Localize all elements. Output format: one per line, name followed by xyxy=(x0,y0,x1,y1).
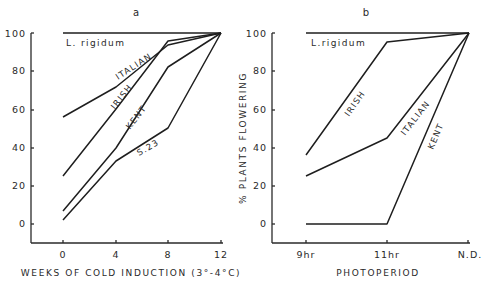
panel-b-y-ticks: 0 20 40 60 80 100 xyxy=(246,28,275,229)
series-l-rigidum-label: L. rigidum xyxy=(66,38,125,48)
series-italian-line xyxy=(306,33,469,176)
figure: a 0 20 40 60 80 100 0 4 8 12 xyxy=(0,0,491,287)
y-tick-label: 100 xyxy=(5,28,26,39)
panel-a: a 0 20 40 60 80 100 0 4 8 12 xyxy=(5,7,241,278)
y-tick-label: 40 xyxy=(253,142,267,153)
y-tick-label: 0 xyxy=(260,218,267,229)
panel-a-x-axis-label: WEEKS OF COLD INDUCTION (3°-4°C) xyxy=(21,268,241,278)
y-tick-label: 20 xyxy=(12,180,26,191)
series-irish-label: IRISH xyxy=(109,82,135,111)
series-italian-label: ITALIAN xyxy=(114,51,154,82)
y-tick-label: 100 xyxy=(246,28,267,39)
panel-a-y-ticks: 0 20 40 60 80 100 xyxy=(5,28,34,229)
series-l-rigidum-label: L.rigidum xyxy=(311,38,366,48)
panel-b-x-axis-label: PHOTOPERIOD xyxy=(336,268,420,278)
x-tick-label: 12 xyxy=(214,249,228,260)
x-tick-label: 8 xyxy=(164,249,171,260)
panel-b: b % PLANTS FLOWERING 0 20 40 60 80 100 9… xyxy=(238,7,482,278)
y-tick-label: 60 xyxy=(12,104,26,115)
panel-b-y-axis-label: % PLANTS FLOWERING xyxy=(238,72,248,204)
x-tick-label: 4 xyxy=(112,249,119,260)
series-kent-label: KENT xyxy=(124,103,149,131)
x-tick-label: 0 xyxy=(59,249,66,260)
y-tick-label: 20 xyxy=(253,180,267,191)
y-tick-label: 0 xyxy=(19,218,26,229)
x-tick-label: 9hr xyxy=(297,249,316,260)
y-tick-label: 80 xyxy=(12,65,26,76)
x-tick-label: 11hr xyxy=(374,249,400,260)
x-tick-label: N.D. xyxy=(458,249,482,260)
series-irish-label: IRISH xyxy=(342,88,367,118)
series-kent-line xyxy=(306,33,469,224)
panel-b-title: b xyxy=(363,7,369,18)
panel-a-title: a xyxy=(133,7,139,18)
y-tick-label: 60 xyxy=(253,104,267,115)
y-tick-label: 40 xyxy=(12,142,26,153)
y-tick-label: 80 xyxy=(253,65,267,76)
